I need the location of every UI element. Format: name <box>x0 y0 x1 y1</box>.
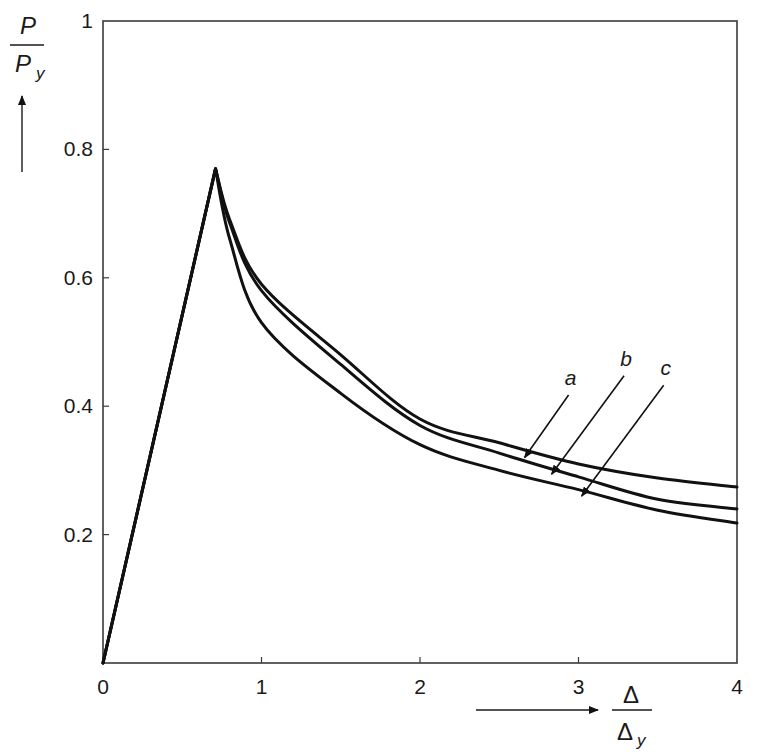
leader-arrow-c-icon <box>582 385 664 496</box>
x-axis-title: Δ Δ y <box>476 681 652 750</box>
y-tick-label: 0.2 <box>64 523 93 546</box>
x-title-numerator: Δ <box>623 681 639 708</box>
x-title-denominator-sub: y <box>636 731 647 750</box>
leader-arrow-b-icon <box>552 376 624 475</box>
y-title-denominator-sub: y <box>35 64 46 83</box>
y-axis-title: P P y <box>10 12 46 172</box>
chart-canvas: 01234 0.20.40.60.81 abc P P y Δ Δ y <box>0 0 759 755</box>
curve-label-a: a <box>565 366 577 389</box>
y-tick-label: 0.8 <box>64 137 93 160</box>
x-tick-label: 2 <box>414 675 426 698</box>
y-tick-label: 0.4 <box>64 394 94 417</box>
curve-label-c: c <box>660 356 671 379</box>
leader-arrow-a-icon <box>525 395 569 458</box>
x-tick-label: 4 <box>731 675 743 698</box>
plot-frame <box>103 21 737 663</box>
y-title-denominator: P <box>15 50 31 77</box>
curve-annotations: abc <box>525 347 672 496</box>
y-title-numerator: P <box>20 12 36 39</box>
y-tick-label: 1 <box>81 9 93 32</box>
y-tick-label: 0.6 <box>64 266 93 289</box>
x-tick-label: 3 <box>573 675 585 698</box>
x-tick-label: 1 <box>256 675 268 698</box>
x-title-denominator: Δ <box>617 718 633 745</box>
curve-label-b: b <box>620 347 632 370</box>
x-tick-label: 0 <box>97 675 109 698</box>
